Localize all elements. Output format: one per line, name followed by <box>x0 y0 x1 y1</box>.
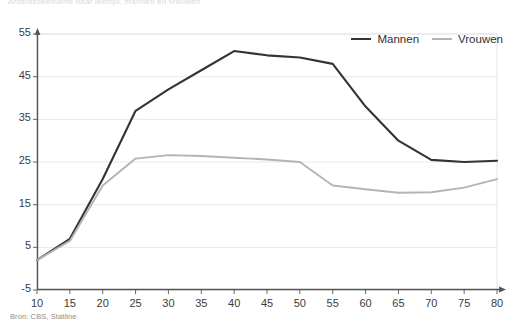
legend-label-mannen: Mannen <box>377 33 419 45</box>
data-series-group <box>37 51 497 260</box>
x-tick-label: 80 <box>477 297 517 309</box>
chart-container: Arbeidsdeelname naar leeftijd, mannen en… <box>0 0 519 327</box>
legend-item-vrouwen[interactable]: Vrouwen <box>432 33 503 45</box>
legend-item-mannen[interactable]: Mannen <box>351 33 419 45</box>
plot-area <box>0 0 519 327</box>
chart-legend: Mannen Vrouwen <box>351 33 503 45</box>
y-tick-label: 55 <box>0 26 31 38</box>
x-axis-ticks <box>37 290 497 294</box>
y-tick-label: 25 <box>0 154 31 166</box>
legend-swatch-mannen-icon <box>351 38 371 40</box>
y-tick-label: 35 <box>0 111 31 123</box>
y-tick-label: -5 <box>0 282 31 294</box>
y-tick-label: 5 <box>0 239 31 251</box>
y-tick-label: 15 <box>0 197 31 209</box>
gridlines <box>37 34 497 247</box>
y-axis-ticks <box>33 34 37 290</box>
legend-label-vrouwen: Vrouwen <box>458 33 503 45</box>
legend-swatch-vrouwen-icon <box>432 38 452 40</box>
y-tick-label: 45 <box>0 69 31 81</box>
source-note: Bron: CBS, Statline <box>10 312 77 321</box>
